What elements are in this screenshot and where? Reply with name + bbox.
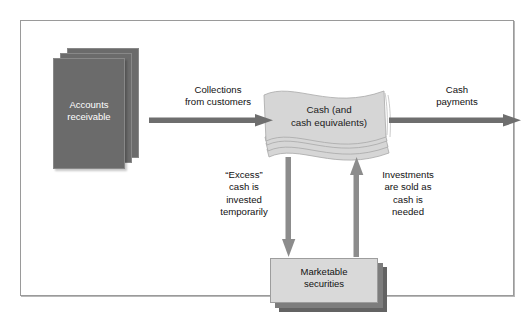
diagram-canvas: Accounts receivable Cash (and cash equiv…: [0, 0, 532, 315]
cash-payments-arrow-label: Cash payments: [409, 84, 505, 109]
excess-cash-arrow-label: “Excess” cash is invested temporarily: [207, 169, 281, 218]
accounts-receivable-box: [53, 58, 125, 169]
investments-sold-arrow-label: Investments are sold as cash is needed: [365, 169, 451, 218]
diagram-frame: Accounts receivable Cash (and cash equiv…: [20, 20, 514, 296]
marketable-securities-box: [270, 258, 378, 303]
investments-sold-arrow-icon: [349, 157, 365, 257]
cash-payments-arrow-icon: [389, 113, 521, 129]
excess-cash-arrow-icon: [281, 157, 297, 257]
collections-arrow-label: Collections from customers: [159, 84, 277, 109]
collections-arrow-icon: [149, 113, 273, 129]
cash-shape: [261, 79, 397, 165]
